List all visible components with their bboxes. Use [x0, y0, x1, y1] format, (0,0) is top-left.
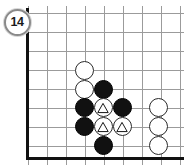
stone-white[interactable]	[75, 61, 94, 80]
triangle-mark-icon	[97, 120, 109, 132]
stone-black[interactable]	[75, 98, 94, 117]
grid-line-vertical	[47, 6, 48, 165]
go-diagram-figure: 14	[0, 0, 184, 167]
stone-white[interactable]	[149, 98, 168, 117]
stone-black[interactable]	[113, 98, 132, 117]
figure-number-label: 14	[11, 15, 24, 29]
stone-black[interactable]	[94, 136, 113, 155]
triangle-mark-icon	[97, 101, 109, 113]
stone-white-marked[interactable]	[94, 98, 113, 117]
board-edge-bottom	[26, 157, 184, 160]
grid-line-vertical	[123, 6, 124, 165]
grid-line-vertical	[142, 6, 143, 165]
stone-black[interactable]	[75, 117, 94, 136]
grid-line-vertical	[66, 6, 67, 165]
stone-white[interactable]	[149, 117, 168, 136]
figure-number-badge: 14	[4, 9, 31, 36]
stone-white[interactable]	[149, 136, 168, 155]
stone-white-marked[interactable]	[113, 117, 132, 136]
stone-white[interactable]	[75, 80, 94, 99]
grid-line-vertical	[180, 6, 181, 165]
stone-white-marked[interactable]	[94, 117, 113, 136]
triangle-mark-icon	[116, 120, 128, 132]
stone-black[interactable]	[94, 80, 113, 99]
